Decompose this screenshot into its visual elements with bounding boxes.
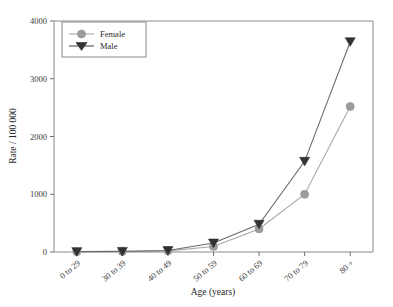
data-point-male <box>345 38 355 47</box>
legend-marker-female-icon <box>78 30 86 38</box>
y-axis-title: Rate / 100 000 <box>8 108 18 164</box>
x-axis-ticks: 0 to 2930 to 3940 to 4950 to 5960 to 697… <box>58 252 356 283</box>
series-layer <box>72 38 355 256</box>
y-tick-label: 2000 <box>30 132 47 142</box>
y-tick-label: 1000 <box>30 189 47 199</box>
legend-box <box>62 22 146 57</box>
legend: Female Male <box>62 22 146 57</box>
y-tick-label: 4000 <box>30 16 47 26</box>
y-tick-label: 3000 <box>30 74 47 84</box>
data-point-male <box>300 157 310 166</box>
legend-label-female: Female <box>100 29 125 39</box>
x-tick-label: 50 to 59 <box>191 258 219 284</box>
chart-container: 01000200030004000 0 to 2930 to 3940 to 4… <box>0 0 393 307</box>
line-chart-plot: 01000200030004000 0 to 2930 to 3940 to 4… <box>0 0 393 307</box>
x-tick-label: 70 to 79 <box>282 258 310 284</box>
series-line-male <box>77 42 350 252</box>
x-tick-label: 80 + <box>337 258 355 276</box>
y-tick-label: 0 <box>43 247 47 257</box>
x-axis-title: Age (years) <box>191 287 236 298</box>
data-point-female <box>346 102 354 110</box>
x-tick-label: 40 to 49 <box>145 258 173 284</box>
series-line-female <box>77 106 350 251</box>
x-tick-label: 60 to 69 <box>237 258 265 284</box>
x-tick-label: 30 to 39 <box>100 258 128 284</box>
y-axis-ticks: 01000200030004000 <box>30 16 54 257</box>
x-tick-label: 0 to 29 <box>58 258 83 281</box>
data-point-female <box>301 190 309 198</box>
legend-label-male: Male <box>100 41 118 51</box>
